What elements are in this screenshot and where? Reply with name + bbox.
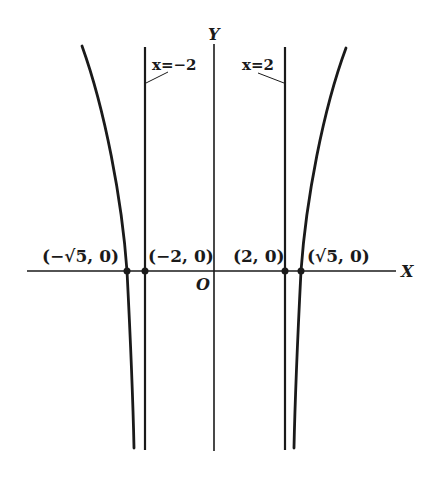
y-axis-label: Y xyxy=(208,25,221,44)
asymptote-label-2: x=2 xyxy=(242,56,274,74)
point-label-neg-sqrt5: (−√5, 0) xyxy=(42,246,119,266)
point-neg2 xyxy=(142,268,149,275)
curve-diagram: Y X O x=−2 x=2 (−√5, 0) (−2, 0) (2, 0) (… xyxy=(0,0,438,480)
asymptote-label-neg2: x=−2 xyxy=(152,56,197,74)
point-label-neg2: (−2, 0) xyxy=(148,246,214,266)
point-2 xyxy=(282,268,289,275)
origin-label: O xyxy=(196,275,210,294)
x-axis-label: X xyxy=(400,262,414,281)
point-label-sqrt5: (√5, 0) xyxy=(307,246,370,266)
point-neg-sqrt5 xyxy=(124,268,131,275)
point-sqrt5 xyxy=(298,268,305,275)
leader-x-2 xyxy=(258,73,284,83)
point-label-2: (2, 0) xyxy=(233,246,285,266)
